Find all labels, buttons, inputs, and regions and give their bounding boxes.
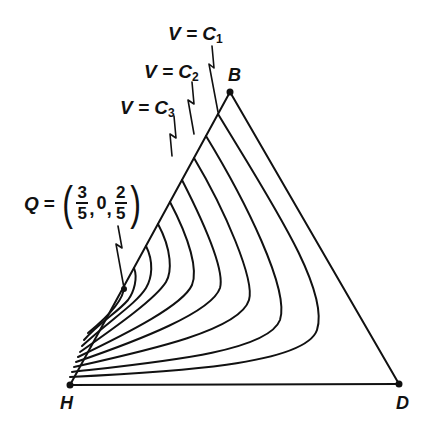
right-paren: )	[130, 180, 141, 226]
point-q-label: Q = ( 35 , 0 , 25 )	[24, 180, 143, 226]
leader-c2	[188, 82, 194, 134]
vertex-label-b: B	[228, 66, 241, 84]
vertex-b-dot	[228, 90, 233, 95]
leader-q	[116, 226, 124, 288]
leader-c3	[170, 116, 176, 156]
label-v-c1: V = C1	[168, 24, 223, 43]
label-v-c2: V = C2	[144, 62, 199, 81]
edge-h-d	[70, 384, 399, 385]
vertex-label-d: D	[396, 394, 409, 412]
level-curve-1	[70, 114, 319, 377]
q-coord-1: 35	[76, 184, 88, 222]
left-paren: (	[62, 180, 73, 226]
vertex-h-dot	[68, 383, 73, 388]
q-coord-3: 25	[115, 184, 127, 222]
label-v-c3: V = C3	[120, 98, 175, 117]
leader-c1	[209, 46, 218, 112]
vertex-label-h: H	[60, 394, 73, 412]
q-sep-1: ,	[89, 199, 94, 218]
q-coord-2: 0	[97, 194, 107, 212]
q-name: Q	[24, 194, 39, 213]
q-equals: =	[44, 194, 55, 213]
vertex-d-dot	[397, 382, 402, 387]
q-sep-2: ,	[107, 199, 112, 218]
